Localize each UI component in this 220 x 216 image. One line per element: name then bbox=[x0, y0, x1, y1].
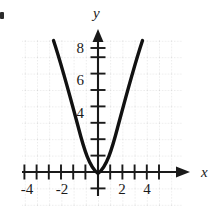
y-tick-label-6: 6 bbox=[62, 73, 84, 88]
x-tick-label-neg2: -2 bbox=[50, 182, 74, 197]
y-axis-arrowhead bbox=[93, 29, 104, 42]
x-axis-arrowhead bbox=[176, 167, 190, 178]
parabola-figure: 8 6 4 -4 -2 2 4 x y bbox=[0, 0, 220, 216]
y-tick-label-8: 8 bbox=[62, 41, 84, 56]
x-axis-label: x bbox=[201, 165, 208, 180]
x-tick-label-4: 4 bbox=[137, 182, 157, 197]
x-tick-label-neg4: -4 bbox=[15, 182, 39, 197]
x-tick-label-2: 2 bbox=[112, 182, 132, 197]
y-tick-label-4: 4 bbox=[62, 106, 84, 121]
y-axis-label: y bbox=[93, 6, 100, 21]
